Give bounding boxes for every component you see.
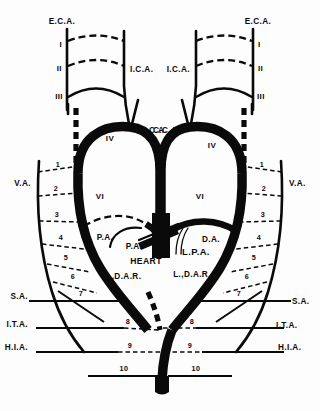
label-va-left: V.A. [14,179,31,188]
label-left-arch-ii: II [57,64,62,73]
label-left-seg-8: 8 [126,317,130,326]
label-ldar: L.,D.A.R. [173,270,211,279]
label-left-seg-1: 1 [56,160,60,169]
label-cca-right: C.C.A. [153,126,180,135]
label-left-seg-4: 4 [59,233,63,242]
label-da: D.A. [202,235,220,244]
label-left-arch-iii: III [55,92,63,101]
label-left-seg-10: 10 [120,364,129,373]
label-sa-left: S.A. [10,292,28,301]
label-ita-left: I.T.A. [6,320,28,329]
label-hia-right: H.I.A. [278,343,301,352]
label-ita-right: I.T.A. [276,321,298,330]
label-heart: HEART [130,256,162,266]
label-pa-lower: P.A. [126,242,142,251]
label-right-seg-4: 4 [257,233,261,242]
label-eca-left: E.C.A. [49,17,76,26]
aortic-arch-diagram: E.C.A. E.C.A. I.C.A. I.C.A. I II III I I… [0,0,320,411]
label-left-seg-2: 2 [54,184,58,193]
label-right-arch-vi: VI [196,192,204,201]
aortic-arch-figure: E.C.A. E.C.A. I.C.A. I.C.A. I II III I I… [0,0,320,411]
label-right-arch-iii: III [257,92,265,101]
label-right-seg-9: 9 [188,341,192,350]
label-left-seg-7: 7 [79,289,83,298]
label-left-seg-6: 6 [71,272,75,281]
label-va-right: V.A. [289,179,306,188]
label-left-seg-9: 9 [128,341,132,350]
label-ica-left: I.C.A. [130,65,153,74]
label-right-arch-i: I [258,40,261,49]
label-left-seg-3: 3 [55,210,59,219]
label-right-seg-7: 7 [237,289,241,298]
label-right-seg-8: 8 [190,317,194,326]
label-right-arch-ii: II [258,64,263,73]
label-ica-right: I.C.A. [167,65,190,74]
label-right-seg-3: 3 [261,210,265,219]
label-right-seg-2: 2 [262,184,266,193]
label-left-arch-iv: IV [106,134,115,143]
label-left-arch-i: I [59,40,62,49]
descending-aorta-tip [155,376,169,395]
label-rdar: R.,D.A.R. [103,272,142,281]
label-eca-right: E.C.A. [245,17,272,26]
label-right-seg-5: 5 [252,253,256,262]
label-pa-upper: P.A. [97,233,113,242]
label-hia-left: H.I.A. [5,343,28,352]
label-right-seg-6: 6 [245,272,249,281]
label-left-arch-vi: VI [96,192,104,201]
label-lpa: L.P.A. [182,246,210,257]
label-left-seg-5: 5 [64,253,68,262]
label-right-arch-iv: IV [208,141,217,150]
label-right-seg-10: 10 [192,364,201,373]
label-right-seg-1: 1 [260,160,264,169]
label-sa-right: S.A. [292,297,310,306]
